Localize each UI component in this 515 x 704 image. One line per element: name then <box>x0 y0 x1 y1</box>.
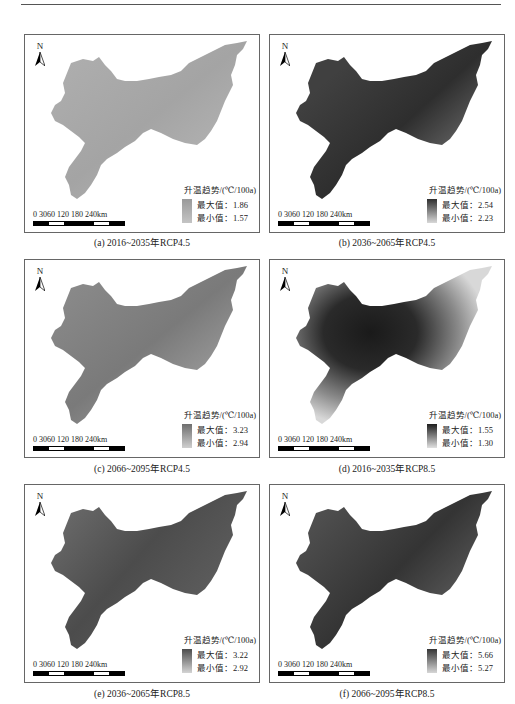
north-arrow: N <box>33 42 47 66</box>
legend-max-value: 2.54 <box>478 200 493 210</box>
legend: 升温趋势/(℃/100a) 最大值：3.22 最小值：2.92 <box>174 633 256 674</box>
north-arrow-icon <box>280 52 290 66</box>
map-panel-f: N 升温趋势/(℃/100a) 最大值：5.66 最小值：5.27 0 3060… <box>269 484 505 683</box>
legend-max-value: 3.23 <box>233 425 248 435</box>
legend-max-value: 3.22 <box>233 650 248 660</box>
legend-max-value: 1.55 <box>478 425 493 435</box>
legend: 升温趋势/(℃/100a) 最大值：3.23 最小值：2.94 <box>174 408 256 449</box>
north-label: N <box>33 42 47 51</box>
scale-bar: 0 3060 120 180 240km <box>278 660 370 676</box>
north-arrow-icon <box>280 277 290 291</box>
caption-c: (c) 2066~2095年RCP4.5 <box>24 461 260 475</box>
legend-min-value: 2.23 <box>478 213 493 223</box>
legend: 升温趋势/(℃/100a) 最大值：1.55 最小值：1.30 <box>419 408 501 449</box>
north-arrow: N <box>278 267 292 291</box>
north-arrow: N <box>278 42 292 66</box>
caption-a: (a) 2016~2035年RCP4.5 <box>24 235 260 249</box>
north-arrow-icon <box>35 502 45 516</box>
north-arrow-icon <box>35 277 45 291</box>
legend-color-ramp <box>427 424 437 448</box>
map-panel-c: N 升温趋势/(℃/100a) 最大值：3.23 最小值：2.94 0 3060… <box>24 259 260 458</box>
legend-min-value: 1.57 <box>233 213 248 223</box>
legend: 升温趋势/(℃/100a) 最大值：5.66 最小值：5.27 <box>419 633 501 674</box>
legend-max-value: 1.86 <box>233 200 248 210</box>
map-panel-e: N 升温趋势/(℃/100a) 最大值：3.22 最小值：2.92 0 3060… <box>24 484 260 683</box>
caption-d: (d) 2016~2035年RCP8.5 <box>269 461 505 475</box>
legend: 升温趋势/(℃/100a) 最大值：2.54 最小值：2.23 <box>419 183 501 224</box>
scale-bar-labels: 0 3060 120 180 240km <box>33 210 125 219</box>
page-top-rule <box>21 4 501 5</box>
legend-title: 升温趋势/(℃/100a) <box>174 183 256 195</box>
legend-color-ramp <box>427 199 437 223</box>
legend-min-value: 2.92 <box>233 663 248 673</box>
north-arrow: N <box>33 267 47 291</box>
legend-min-value: 1.30 <box>478 438 493 448</box>
caption-f: (f) 2066~2095年RCP8.5 <box>269 686 505 700</box>
north-arrow: N <box>278 492 292 516</box>
legend-min: 最小值：1.57 <box>197 211 248 223</box>
legend-color-ramp <box>182 199 192 223</box>
legend-color-ramp <box>427 649 437 673</box>
map-panel-b: N 升温趋势/(℃/100a) 最大值：2.54 最小值：2.23 0 3060… <box>269 34 505 233</box>
north-arrow-icon <box>280 502 290 516</box>
north-arrow: N <box>33 492 47 516</box>
scale-bar: 0 3060 120 180 240km <box>33 210 125 226</box>
caption-b: (b) 2036~2065年RCP4.5 <box>269 235 505 249</box>
caption-e: (e) 2036~2065年RCP8.5 <box>24 686 260 700</box>
map-panel-a: N 升温趋势/(℃/100a) 最大值：1.86 最小值：1.57 0 3060… <box>24 34 260 233</box>
scale-bar: 0 3060 120 180 240km <box>33 435 125 451</box>
map-panel-d: N 升温趋势/(℃/100a) 最大值：1.55 最小值：1.30 0 3060… <box>269 259 505 458</box>
scale-bar: 0 3060 120 180 240km <box>278 435 370 451</box>
legend-max-value: 5.66 <box>478 650 493 660</box>
legend-max: 最大值：1.86 <box>197 198 248 210</box>
legend-min-value: 5.27 <box>478 663 493 673</box>
north-arrow-icon <box>35 52 45 66</box>
legend-color-ramp <box>182 649 192 673</box>
legend: 升温趋势/(℃/100a) 最大值：1.86 最小值：1.57 <box>174 183 256 224</box>
scale-bar: 0 3060 120 180 240km <box>33 660 125 676</box>
scale-bar: 0 3060 120 180 240km <box>278 210 370 226</box>
legend-color-ramp <box>182 424 192 448</box>
legend-min-value: 2.94 <box>233 438 248 448</box>
